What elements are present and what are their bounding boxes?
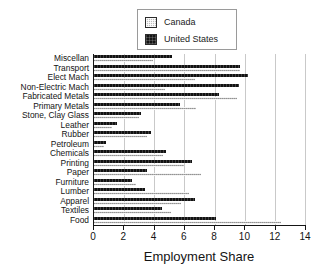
x-axis-tick-label: 4 <box>151 231 157 243</box>
legend-label-united-states: United States <box>164 34 218 45</box>
bar-united-states <box>94 112 141 115</box>
x-axis-tick-label: 6 <box>181 231 187 243</box>
bar-row <box>94 54 305 64</box>
x-axis-tick-label: 14 <box>299 231 310 243</box>
bar-united-states <box>94 160 192 163</box>
bar-canada <box>94 154 163 157</box>
bar-canada <box>94 78 195 81</box>
x-axis-ticks <box>93 225 305 230</box>
bar-canada <box>94 88 165 91</box>
x-axis-tick <box>123 225 124 230</box>
x-axis-tick-label: 12 <box>269 231 280 243</box>
bar-canada <box>94 97 237 100</box>
bar-united-states <box>94 65 240 68</box>
bar-united-states <box>94 55 172 58</box>
bar-canada <box>94 202 181 205</box>
bar-united-states <box>94 141 106 144</box>
bar-canada <box>94 183 136 186</box>
bar-canada <box>94 69 240 72</box>
chart-legend: Canada United States <box>137 9 237 50</box>
bar-canada <box>94 107 196 110</box>
x-axis-tick <box>244 225 245 230</box>
legend-label-canada: Canada <box>164 17 196 28</box>
x-axis-title: Employment Share <box>93 249 305 264</box>
bar-row <box>94 159 305 169</box>
bar-canada <box>94 126 112 129</box>
bar-row <box>94 111 305 121</box>
bar-united-states <box>94 207 162 210</box>
plot-area-wrapper: MiscellanTransportElect MachNon-Electric… <box>0 54 316 229</box>
bar-row <box>94 64 305 74</box>
bar-row <box>94 140 305 150</box>
legend-item-canada: Canada <box>145 14 231 30</box>
employment-share-bar-chart: Canada United States MiscellanTransportE… <box>0 0 316 274</box>
bar-row <box>94 216 305 226</box>
x-axis-tick <box>305 225 306 230</box>
united-states-swatch-icon <box>145 34 157 45</box>
bar-united-states <box>94 122 117 125</box>
bar-united-states <box>94 217 216 220</box>
canada-swatch-icon <box>145 17 157 28</box>
bar-canada <box>94 221 281 224</box>
bar-row <box>94 121 305 131</box>
bar-united-states <box>94 74 248 77</box>
x-axis-tick-label: 0 <box>90 231 96 243</box>
bar-row <box>94 178 305 188</box>
bar-united-states <box>94 169 147 172</box>
bar-canada <box>94 145 104 148</box>
bar-united-states <box>94 179 132 182</box>
bar-united-states <box>94 93 219 96</box>
bar-canada <box>94 116 139 119</box>
bar-row <box>94 168 305 178</box>
x-axis-tick <box>93 225 94 230</box>
bar-row <box>94 187 305 197</box>
x-axis-tick-label: 10 <box>239 231 250 243</box>
bar-united-states <box>94 84 239 87</box>
bar-row <box>94 197 305 207</box>
bar-rows <box>94 54 305 225</box>
bar-canada <box>94 192 189 195</box>
x-axis-tick-label: 8 <box>211 231 217 243</box>
y-axis-category-labels: MiscellanTransportElect MachNon-Electric… <box>0 54 92 225</box>
y-axis-label: Food <box>0 216 92 226</box>
bar-united-states <box>94 198 195 201</box>
gridline <box>305 54 306 225</box>
x-axis-tick <box>275 225 276 230</box>
bar-row <box>94 130 305 140</box>
x-axis-tick-labels: 02468101214 <box>93 231 305 245</box>
legend-item-united-states: United States <box>145 31 231 47</box>
bar-united-states <box>94 131 151 134</box>
bar-united-states <box>94 188 145 191</box>
x-axis-tick-label: 2 <box>121 231 127 243</box>
bar-canada <box>94 59 153 62</box>
bar-canada <box>94 211 171 214</box>
bar-canada <box>94 135 147 138</box>
bar-row <box>94 73 305 83</box>
x-axis-tick <box>214 225 215 230</box>
x-axis-tick <box>154 225 155 230</box>
bar-row <box>94 102 305 112</box>
bar-row <box>94 92 305 102</box>
bar-united-states <box>94 103 180 106</box>
bar-row <box>94 83 305 93</box>
plot-area <box>93 54 305 225</box>
bar-united-states <box>94 150 166 153</box>
bar-row <box>94 206 305 216</box>
bar-canada <box>94 164 184 167</box>
bar-row <box>94 149 305 159</box>
bar-canada <box>94 173 201 176</box>
x-axis-tick <box>184 225 185 230</box>
